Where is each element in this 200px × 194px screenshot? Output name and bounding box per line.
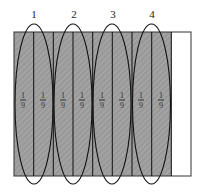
fraction-label: 19: [40, 91, 46, 110]
fraction-label: 19: [60, 91, 66, 110]
group-label-1: 1: [31, 8, 37, 20]
group-label-2: 2: [71, 8, 77, 20]
fraction-label: 19: [158, 91, 164, 110]
group-label-4: 4: [149, 8, 155, 20]
fraction-label: 19: [79, 91, 85, 110]
fraction-label: 19: [138, 91, 144, 110]
group-label-3: 3: [110, 8, 116, 20]
fraction-label: 19: [99, 91, 105, 110]
fraction-label: 19: [20, 91, 26, 110]
fraction-label: 19: [119, 91, 125, 110]
